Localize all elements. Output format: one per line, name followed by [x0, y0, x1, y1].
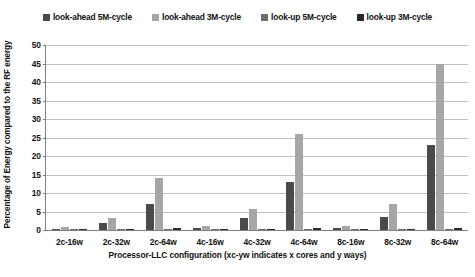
y-axis-tick-label: 45 [32, 59, 46, 69]
bar[interactable] [427, 145, 435, 230]
y-axis-tick-label: 50 [32, 40, 46, 50]
legend-item-look-up-3m-cycle[interactable]: look-up 3M-cycle [357, 13, 433, 21]
chart-legend: look-ahead 5M-cycle look-ahead 3M-cycle … [0, 13, 475, 21]
legend-label-series-4: look-up 3M-cycle [367, 13, 433, 21]
bar[interactable] [240, 218, 248, 230]
legend-label-series-2: look-ahead 3M-cycle [162, 13, 241, 21]
y-axis-tick-label: 25 [32, 133, 46, 143]
y-axis-tick-label: 10 [32, 188, 46, 198]
bar[interactable] [286, 182, 294, 230]
legend-item-look-ahead-5m-cycle[interactable]: look-ahead 5M-cycle [43, 13, 132, 21]
bar-group: 2c-16w [46, 45, 93, 230]
y-axis-tick-label: 20 [32, 151, 46, 161]
y-axis-tick-label: 30 [32, 114, 46, 124]
y-axis-tick-label: 35 [32, 96, 46, 106]
x-axis-tick-label: 4c-32w [234, 230, 281, 247]
bar[interactable] [436, 64, 444, 231]
bar[interactable] [295, 134, 303, 230]
bar-group: 8c-64w [421, 45, 468, 230]
legend-swatch-series-3 [261, 14, 268, 21]
bar[interactable] [99, 223, 107, 230]
x-axis-tick-label: 2c-64w [140, 230, 187, 247]
y-axis-title-wrap: Percentage of Energy compared to the RF … [0, 36, 16, 232]
bar[interactable] [108, 218, 116, 230]
bar[interactable] [146, 204, 154, 230]
y-axis-tick-label: 0 [36, 225, 46, 235]
legend-item-look-ahead-3m-cycle[interactable]: look-ahead 3M-cycle [152, 13, 241, 21]
bar-group: 4c-16w [187, 45, 234, 230]
legend-swatch-series-1 [43, 14, 50, 21]
x-axis-tick-label: 2c-32w [93, 230, 140, 247]
bar-group: 8c-16w [327, 45, 374, 230]
y-axis-tick-label: 5 [36, 207, 46, 217]
plot-area: 05101520253035404550 2c-16w2c-32w2c-64w4… [45, 45, 468, 231]
bar-group: 4c-64w [280, 45, 327, 230]
bar[interactable] [380, 217, 388, 230]
y-axis-title: Percentage of Energy compared to the RF … [4, 40, 13, 228]
x-axis-tick-label: 2c-16w [46, 230, 93, 247]
x-axis-title: Processor-LLC configuration (xc-yw indic… [0, 250, 475, 260]
x-axis-tick-label: 8c-32w [374, 230, 421, 247]
legend-swatch-series-4 [357, 14, 364, 21]
bar-groups: 2c-16w2c-32w2c-64w4c-16w4c-32w4c-64w8c-1… [46, 45, 468, 230]
y-axis-tick-label: 15 [32, 170, 46, 180]
legend-swatch-series-2 [152, 14, 159, 21]
bar-group: 2c-32w [93, 45, 140, 230]
x-axis-tick-label: 8c-16w [327, 230, 374, 247]
x-axis-tick-label: 4c-16w [187, 230, 234, 247]
bar-chart: look-ahead 5M-cycle look-ahead 3M-cycle … [0, 0, 475, 277]
legend-item-look-up-5m-cycle[interactable]: look-up 5M-cycle [261, 13, 337, 21]
bar[interactable] [249, 209, 257, 230]
bar[interactable] [155, 178, 163, 230]
x-axis-tick-label: 8c-64w [421, 230, 468, 247]
x-axis-tick-label: 4c-64w [280, 230, 327, 247]
legend-label-series-1: look-ahead 5M-cycle [53, 13, 132, 21]
bar[interactable] [389, 204, 397, 230]
bar-group: 4c-32w [234, 45, 281, 230]
bar-group: 2c-64w [140, 45, 187, 230]
y-axis-tick-label: 40 [32, 77, 46, 87]
bar-group: 8c-32w [374, 45, 421, 230]
legend-label-series-3: look-up 5M-cycle [271, 13, 337, 21]
